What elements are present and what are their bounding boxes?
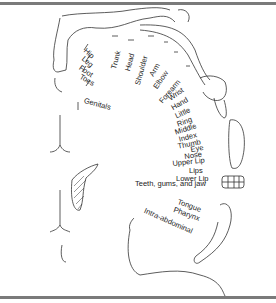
homunculus-diagram: Hip Leg Foot Toes Genitals Trunk Head Sh…: [0, 0, 276, 303]
label-teeth-gums-jaw: Teeth, gums, and jaw: [135, 180, 206, 188]
homunculus-drawing: [0, 0, 276, 303]
